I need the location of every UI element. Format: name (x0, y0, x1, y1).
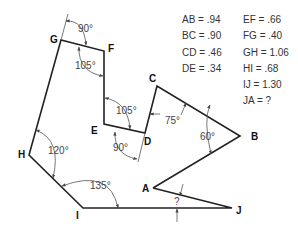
length-bc: BC = .90 (182, 28, 222, 44)
lengths-legend-column-2: EF = .66 FG = .40 GH = 1.06 HI = .68 IJ … (243, 12, 289, 110)
angle-label-c: 75° (165, 115, 180, 126)
length-ij: IJ = 1.30 (243, 77, 289, 93)
angle-label-d: 90° (113, 142, 128, 153)
lengths-legend-column-1: AB = .94 BC = .90 CD = .46 DE = .34 (182, 12, 222, 77)
angle-arc-c2 (181, 103, 186, 115)
vertex-label-g: G (50, 34, 58, 45)
length-de: DE = .34 (182, 61, 222, 77)
angle-label-f: 105° (75, 60, 96, 71)
vertex-label-c: C (149, 73, 156, 84)
angle-label-j: ? (174, 196, 180, 207)
vertex-label-d: D (144, 136, 151, 147)
vertex-label-j: J (236, 205, 242, 216)
length-hi: HI = .68 (243, 61, 289, 77)
angle-label-e: 105° (116, 105, 137, 116)
angle-label-i: 135° (90, 180, 111, 191)
length-ja: JA = ? (243, 93, 289, 109)
vertex-label-h: H (18, 149, 25, 160)
angle-label-g: 90° (78, 23, 93, 34)
angle-arc-b (207, 105, 211, 154)
length-cd: CD = .46 (182, 45, 222, 61)
length-fg: FG = .40 (243, 28, 289, 44)
length-ab: AB = .94 (182, 12, 222, 28)
vertex-label-i: I (76, 210, 79, 221)
vertex-label-f: F (108, 43, 114, 54)
vertex-label-a: A (142, 183, 149, 194)
vertex-label-b: B (251, 131, 258, 142)
angle-label-h: 120° (48, 145, 69, 156)
extension-line-g (61, 14, 68, 40)
vertex-label-e: E (91, 125, 98, 136)
length-ef: EF = .66 (243, 12, 289, 28)
length-gh: GH = 1.06 (243, 45, 289, 61)
angle-label-b: 60° (200, 131, 215, 142)
angle-arc-a (180, 184, 183, 196)
